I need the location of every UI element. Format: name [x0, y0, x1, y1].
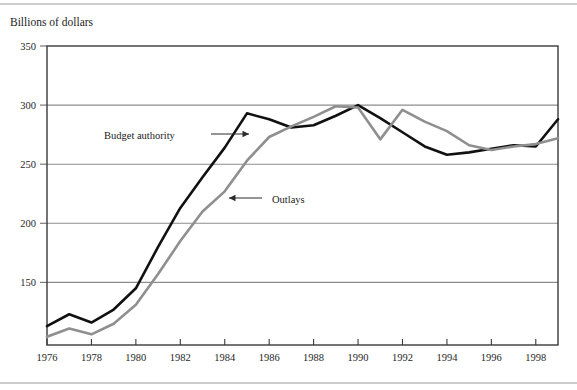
y-tick-label-200: 200 — [20, 218, 36, 229]
x-tick-label-1980: 1980 — [125, 352, 146, 363]
x-tick-label-1982: 1982 — [170, 352, 191, 363]
chart-figure: Billions of dollars 150200250300350 1976… — [0, 0, 577, 390]
y-tick-label-300: 300 — [20, 100, 36, 111]
y-tick-label-350: 350 — [20, 41, 36, 52]
x-tick-label-1990: 1990 — [348, 352, 369, 363]
x-tick-label-1988: 1988 — [303, 352, 324, 363]
annotation-label-outlays: Outlays — [272, 194, 305, 205]
x-tick-label-1996: 1996 — [481, 352, 502, 363]
y-tick-label-250: 250 — [20, 159, 36, 170]
annotation-label-budget-authority: Budget authority — [104, 130, 176, 141]
y-tick-label-150: 150 — [20, 277, 36, 288]
x-tick-label-1976: 1976 — [37, 352, 58, 363]
x-tick-label-1978: 1978 — [81, 352, 102, 363]
x-tick-label-1984: 1984 — [214, 352, 236, 363]
x-tick-label-1986: 1986 — [259, 352, 280, 363]
x-tick-label-1992: 1992 — [392, 352, 413, 363]
y-axis-title: Billions of dollars — [10, 16, 94, 28]
x-tick-label-1998: 1998 — [525, 352, 546, 363]
x-tick-label-1994: 1994 — [436, 352, 458, 363]
